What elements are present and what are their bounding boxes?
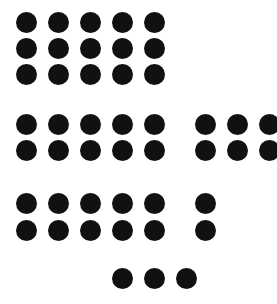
dot-marker bbox=[144, 193, 165, 214]
dot-marker bbox=[80, 193, 101, 214]
dot-marker bbox=[112, 140, 133, 161]
dot-marker bbox=[80, 64, 101, 85]
dot-marker bbox=[144, 220, 165, 241]
dot-marker bbox=[112, 12, 133, 33]
dot-marker bbox=[227, 140, 248, 161]
dot-marker bbox=[144, 12, 165, 33]
dot-marker bbox=[48, 12, 69, 33]
dot-marker bbox=[80, 140, 101, 161]
dot-marker bbox=[195, 193, 216, 214]
dot-marker bbox=[259, 114, 277, 135]
dot-marker bbox=[144, 38, 165, 59]
dot-marker bbox=[48, 64, 69, 85]
dot-marker bbox=[112, 193, 133, 214]
dot-marker bbox=[48, 38, 69, 59]
dot-marker bbox=[144, 268, 165, 289]
dot-marker bbox=[16, 38, 37, 59]
dot-marker bbox=[195, 114, 216, 135]
dot-marker bbox=[48, 220, 69, 241]
dot-marker bbox=[48, 140, 69, 161]
dot-marker bbox=[16, 114, 37, 135]
dot-marker bbox=[16, 193, 37, 214]
dot-marker bbox=[195, 140, 216, 161]
dot-marker bbox=[259, 140, 277, 161]
dot-marker bbox=[80, 220, 101, 241]
dot-marker bbox=[112, 220, 133, 241]
dot-marker bbox=[16, 220, 37, 241]
dot-marker bbox=[16, 12, 37, 33]
dot-marker bbox=[112, 38, 133, 59]
dot-marker bbox=[80, 12, 101, 33]
dot-marker bbox=[112, 114, 133, 135]
dot-marker bbox=[80, 38, 101, 59]
dot-marker bbox=[16, 64, 37, 85]
dot-marker bbox=[144, 64, 165, 85]
dot-marker bbox=[144, 140, 165, 161]
dot-marker bbox=[80, 114, 101, 135]
dot-marker bbox=[112, 268, 133, 289]
dot-marker bbox=[195, 220, 216, 241]
dot-pattern-canvas bbox=[0, 0, 277, 304]
dot-marker bbox=[176, 268, 197, 289]
dot-marker bbox=[48, 193, 69, 214]
dot-marker bbox=[227, 114, 248, 135]
dot-marker bbox=[48, 114, 69, 135]
dot-marker bbox=[144, 114, 165, 135]
dot-marker bbox=[16, 140, 37, 161]
dot-marker bbox=[112, 64, 133, 85]
